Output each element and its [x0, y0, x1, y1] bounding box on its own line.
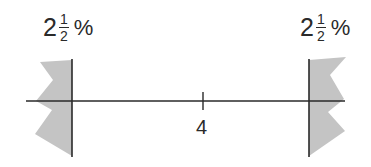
right-shaded-tail [309, 57, 346, 156]
left-shaded-tail [35, 60, 72, 156]
left-tail-label: 2 1 2 % [43, 12, 93, 43]
right-label-unit: % [331, 17, 351, 39]
right-label-whole: 2 [300, 15, 314, 40]
left-label-fraction: 1 2 [59, 12, 69, 43]
right-label-denominator: 2 [317, 28, 325, 43]
right-label-fraction: 1 2 [316, 12, 326, 43]
left-label-whole: 2 [43, 15, 57, 40]
tail-diagram: 2 1 2 % 2 1 2 % 4 [0, 0, 371, 167]
left-label-denominator: 2 [60, 28, 68, 43]
right-label-numerator: 1 [316, 12, 326, 28]
right-tail-label: 2 1 2 % [300, 12, 350, 43]
center-tick-label: 4 [196, 117, 207, 137]
left-label-unit: % [74, 17, 94, 39]
left-label-numerator: 1 [59, 12, 69, 28]
